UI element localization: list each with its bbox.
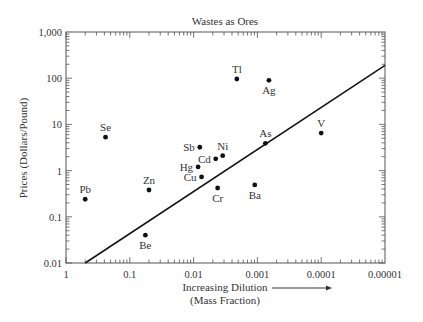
point-label: Zn bbox=[143, 174, 156, 186]
chart-title: Wastes as Ores bbox=[192, 15, 258, 27]
y-tick-label: 0.1 bbox=[49, 212, 62, 223]
data-point-cu: Cu bbox=[184, 171, 204, 183]
x-tick-label: 0.001 bbox=[246, 269, 270, 280]
x-tick-label: 0.0001 bbox=[307, 269, 336, 280]
point-label: V bbox=[317, 117, 325, 129]
x-axis-label: Increasing Dilution bbox=[182, 281, 268, 293]
point-label: Tl bbox=[232, 63, 242, 75]
data-point-ba: Ba bbox=[249, 183, 261, 201]
trend-line bbox=[85, 65, 385, 263]
x-tick-label: 0.1 bbox=[123, 269, 136, 280]
y-tick-label: 10 bbox=[52, 119, 63, 130]
data-point-as: As bbox=[259, 127, 271, 145]
y-tick-labels: 0.010.11101001,000 bbox=[38, 27, 62, 269]
point-label: Cr bbox=[212, 192, 223, 204]
y-tick-label: 0.01 bbox=[44, 258, 62, 269]
data-point-pb: Pb bbox=[79, 183, 91, 201]
point-label: Cu bbox=[184, 171, 197, 183]
data-point-v: V bbox=[317, 117, 325, 135]
y-tick-label: 1,000 bbox=[38, 27, 62, 38]
y-tick-label: 1 bbox=[57, 166, 62, 177]
point-label: Ba bbox=[249, 189, 261, 201]
data-point-zn: Zn bbox=[143, 174, 156, 192]
point-label: Ag bbox=[262, 84, 276, 96]
data-point-cd: Cd bbox=[198, 153, 218, 165]
point-label: Ni bbox=[217, 140, 228, 152]
data-point-sb: Sb bbox=[183, 141, 202, 153]
point-label: As bbox=[259, 127, 271, 139]
x-tick-labels: 10.10.010.0010.00010.00001 bbox=[63, 269, 402, 280]
wastes-as-ores-chart: Wastes as Ores 10.10.010.0010.00010.0000… bbox=[0, 0, 423, 322]
data-point-cr: Cr bbox=[212, 186, 223, 204]
point-label: Be bbox=[139, 239, 151, 251]
data-point-tl: Tl bbox=[232, 63, 242, 81]
data-point-se: Se bbox=[100, 121, 111, 139]
point-label: Cd bbox=[198, 153, 211, 165]
arrow-right-icon bbox=[272, 286, 332, 291]
x-tick-label: 0.01 bbox=[184, 269, 202, 280]
point-label: Pb bbox=[79, 183, 91, 195]
point-label: Se bbox=[100, 121, 111, 133]
y-axis-label: Prices (Dollars/Pound) bbox=[17, 97, 30, 198]
data-points: PbSeZnBeSbNiCdHgCuCrBaAsTlAgV bbox=[79, 63, 325, 251]
data-point-be: Be bbox=[139, 233, 151, 251]
x-tick-label: 1 bbox=[63, 269, 68, 280]
y-tick-label: 100 bbox=[46, 73, 62, 84]
point-label: Sb bbox=[183, 141, 195, 153]
x-axis-sublabel: (Mass Fraction) bbox=[190, 294, 260, 307]
data-point-ni: Ni bbox=[217, 140, 228, 158]
data-point-ag: Ag bbox=[262, 78, 276, 96]
x-tick-label: 0.00001 bbox=[368, 269, 402, 280]
